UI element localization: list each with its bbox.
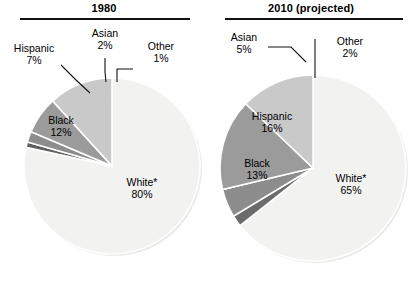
label-hispanic-2010: Hispanic 16% <box>234 110 310 134</box>
label-white-2010: White* 65% <box>319 172 383 196</box>
label-black-1980: Black 12% <box>31 114 91 138</box>
label-black-2010: Black 13% <box>226 157 288 181</box>
pie-chart-1980: 1980 Hispanic 7% Asian 2% Other 1% <box>0 0 208 284</box>
pie-slices-1980 <box>24 78 200 254</box>
leader-lines-2010 <box>268 39 315 78</box>
label-asian-2010: Asian 5% <box>215 31 273 55</box>
label-asian-1980: Asian 2% <box>75 27 135 51</box>
label-other-1980: Other 1% <box>131 40 191 64</box>
label-hispanic-1980: Hispanic 7% <box>2 42 66 66</box>
label-other-2010: Other 2% <box>320 35 380 59</box>
pie-chart-2010: 2010 (projected) Asian 5% Other 2% Hispa… <box>207 0 415 284</box>
label-white-1980: White* 80% <box>110 176 174 200</box>
